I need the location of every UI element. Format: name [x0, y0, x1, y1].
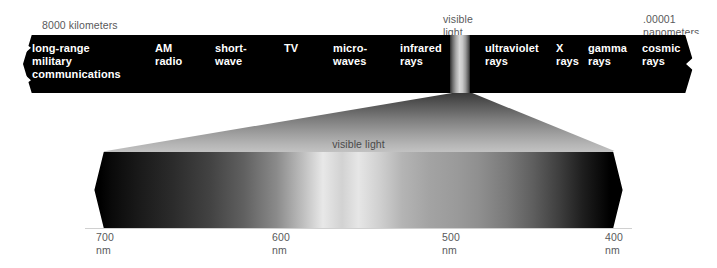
banner-right-notch-icon	[685, 34, 705, 94]
spectrum-gradient	[85, 152, 632, 228]
band-label-cosmic-rays: cosmic rays	[642, 42, 681, 68]
tick-label-400-nm: 400 nm	[605, 231, 623, 257]
band-label-ultraviolet-rays: ultraviolet rays	[485, 42, 539, 68]
band-label-x-rays: X rays	[556, 42, 579, 68]
band-label-long-range-military-communications: long-range military communications	[32, 42, 121, 81]
visible-light-caption: visible light	[0, 138, 717, 150]
band-label-am-radio: AM radio	[155, 42, 182, 68]
visible-light-spectrum-banner	[85, 152, 632, 228]
band-label-gamma-rays: gamma rays	[588, 42, 627, 68]
band-label-micro-waves: micro- waves	[333, 42, 367, 68]
tick-label-600-nm: 600 nm	[272, 231, 290, 257]
visible-light-slot	[450, 35, 470, 93]
tick-label-500-nm: 500 nm	[442, 231, 460, 257]
band-label-infrared-rays: infrared rays	[400, 42, 442, 68]
spectrum-baseline-rule	[85, 228, 632, 229]
band-label-tv: TV	[284, 42, 298, 55]
band-label-short-wave: short- wave	[215, 42, 247, 68]
scale-left-label: 8000 kilometers	[42, 19, 118, 32]
spectrum-diagram: 8000 kilometers .00001 nanometers visibl…	[0, 0, 717, 268]
tick-label-700-nm: 700 nm	[96, 231, 114, 257]
